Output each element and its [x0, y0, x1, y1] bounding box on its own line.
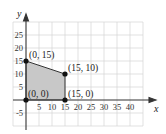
svg-text:30: 30	[100, 102, 109, 112]
svg-text:20: 20	[74, 102, 83, 112]
chart: x y 5 10 15 20 25 30 35 40 25 20 15 10 5…	[0, 0, 166, 134]
svg-text:20: 20	[15, 43, 24, 53]
label-15-10: (15, 10)	[68, 63, 98, 74]
svg-text:25: 25	[87, 102, 96, 112]
svg-text:5: 5	[19, 82, 23, 92]
svg-text:5: 5	[37, 102, 41, 112]
x-axis-label: x	[153, 103, 159, 114]
svg-text:15: 15	[61, 102, 70, 112]
label-0-15: (0, 15)	[29, 50, 54, 61]
y-axis-label: y	[16, 8, 22, 19]
y-tick-labels: 25 20 15 10 5 -5	[15, 30, 24, 118]
svg-text:25: 25	[15, 30, 24, 40]
label-15-0: (15, 0)	[68, 89, 93, 100]
point-15-10	[62, 71, 67, 76]
svg-text:-5: -5	[16, 108, 23, 118]
svg-text:10: 10	[15, 69, 24, 79]
svg-text:10: 10	[48, 102, 57, 112]
svg-text:35: 35	[113, 102, 122, 112]
svg-text:15: 15	[15, 56, 24, 66]
point-0-15	[23, 58, 28, 63]
x-tick-labels: 5 10 15 20 25 30 35 40	[37, 102, 134, 112]
svg-text:40: 40	[126, 102, 135, 112]
point-15-0	[62, 97, 67, 102]
label-0-0: (0, 0)	[28, 89, 49, 100]
